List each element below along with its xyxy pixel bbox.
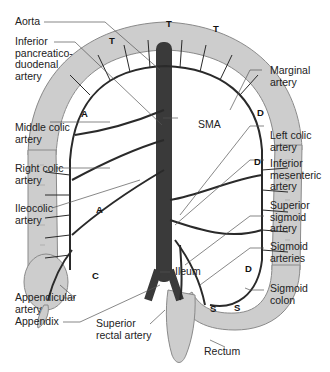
label-ileocolic-artery: Ileocolic artery — [15, 203, 53, 226]
segment-marker-s2: S — [234, 302, 240, 313]
label-ileum: Ileum — [175, 266, 201, 278]
segment-marker-d2: D — [254, 156, 261, 167]
label-aorta: Aorta — [15, 16, 40, 28]
label-inferior-mesenteric-artery: Inferior mesenteric artery — [270, 158, 321, 193]
label-appendicular-artery: Appendicular artery — [15, 292, 76, 315]
label-right-colic-artery: Right colic artery — [15, 163, 63, 186]
segment-marker-a2: A — [96, 204, 103, 215]
label-sigmoid-arteries: Sigmoid arteries — [270, 241, 308, 264]
segment-marker-a1: A — [81, 108, 88, 119]
segment-marker-d3: D — [245, 263, 252, 274]
segment-marker-t1: T — [109, 35, 115, 46]
segment-marker-c: C — [92, 270, 99, 281]
label-rectum: Rectum — [204, 346, 240, 358]
segment-marker-s1: S — [210, 303, 216, 314]
label-inferior-pancreaticoduodenal-artery: Inferior pancreatico- duodenal artery — [15, 36, 73, 82]
label-marginal-artery: Marginal artery — [270, 65, 310, 88]
label-superior-sigmoid-artery: Superior sigmoid artery — [270, 200, 310, 235]
segment-marker-d1: D — [257, 107, 264, 118]
label-appendix: Appendix — [15, 316, 59, 328]
label-sigmoid-colon: Sigmoid colon — [270, 283, 308, 306]
segment-marker-t3: T — [213, 23, 219, 34]
aorta-vessel — [156, 42, 172, 282]
label-sma: SMA — [198, 119, 221, 131]
label-superior-rectal-artery: Superior rectal artery — [96, 318, 151, 341]
segment-marker-t2: T — [166, 18, 172, 29]
colon-artery-diagram: T T T A A C D D D S S Aorta Inferior pan… — [0, 0, 330, 372]
label-middle-colic-artery: Middle colic artery — [15, 122, 70, 145]
label-left-colic-artery: Left colic artery — [270, 130, 311, 153]
